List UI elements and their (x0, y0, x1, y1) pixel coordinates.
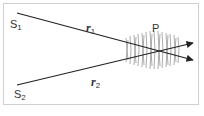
wavefronts (126, 31, 179, 69)
path-r1-label: r1 (86, 22, 95, 36)
source-s1-label: S1 (10, 19, 22, 32)
point-p-label: P (152, 23, 159, 34)
path-r2-label: r2 (91, 76, 100, 90)
interference-diagram (0, 0, 204, 116)
source-s2-label: S2 (14, 89, 26, 102)
